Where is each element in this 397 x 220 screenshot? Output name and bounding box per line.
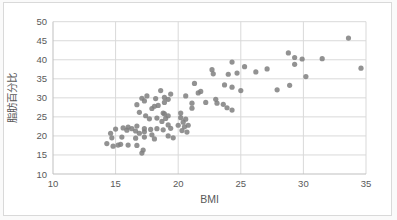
y-axis-title: 脂肪百分比 xyxy=(6,73,18,123)
x-tick-label: 20 xyxy=(173,178,184,189)
y-tick-label: 35 xyxy=(36,73,47,84)
data-point xyxy=(229,107,234,112)
data-point xyxy=(147,116,152,121)
x-tick-label: 10 xyxy=(48,178,59,189)
data-point xyxy=(189,106,194,111)
data-point xyxy=(154,115,159,120)
y-tick-label: 50 xyxy=(36,16,47,27)
data-point xyxy=(320,56,325,61)
x-tick-label: 30 xyxy=(298,178,309,189)
data-point xyxy=(108,131,113,136)
data-point xyxy=(286,50,291,55)
data-point xyxy=(242,64,247,69)
data-point xyxy=(300,56,305,61)
data-point xyxy=(118,142,123,147)
y-tick-label: 10 xyxy=(36,169,47,180)
data-point xyxy=(158,88,163,93)
data-point xyxy=(104,141,109,146)
data-point xyxy=(109,135,114,140)
data-point xyxy=(287,83,292,88)
data-point xyxy=(224,105,229,110)
data-point xyxy=(253,69,258,74)
data-point xyxy=(178,110,183,115)
data-point xyxy=(113,126,118,131)
data-point xyxy=(142,134,147,139)
x-tick-label: 35 xyxy=(361,178,372,189)
data-point xyxy=(275,87,280,92)
data-point xyxy=(148,127,153,132)
scatter-plot: 101520253035101520253035404550BMI脂肪百分比 xyxy=(0,0,397,220)
x-axis-title: BMI xyxy=(200,193,219,205)
data-point xyxy=(186,123,191,128)
y-tick-label: 25 xyxy=(36,111,47,122)
data-point xyxy=(214,101,219,106)
data-point xyxy=(134,102,139,107)
data-point xyxy=(133,136,138,141)
data-point xyxy=(226,72,231,77)
data-point xyxy=(168,91,173,96)
data-point xyxy=(141,147,146,152)
data-point xyxy=(183,93,188,98)
data-point xyxy=(178,115,183,120)
y-tick-label: 15 xyxy=(36,149,47,160)
data-point xyxy=(211,71,216,76)
data-point xyxy=(166,133,171,138)
data-point xyxy=(234,71,239,76)
data-point xyxy=(166,97,171,102)
data-point xyxy=(358,66,363,71)
data-point xyxy=(161,127,166,132)
x-tick-label: 25 xyxy=(236,178,247,189)
data-point xyxy=(292,62,297,67)
data-point xyxy=(110,144,115,149)
data-point xyxy=(126,142,131,147)
data-point xyxy=(134,123,139,128)
data-point xyxy=(292,55,297,60)
data-point xyxy=(176,123,181,128)
data-point xyxy=(229,85,234,90)
data-point xyxy=(152,136,157,141)
data-point xyxy=(264,66,269,71)
data-point xyxy=(303,74,308,79)
data-point xyxy=(119,134,124,139)
data-point xyxy=(144,93,149,98)
y-tick-label: 30 xyxy=(36,92,47,103)
data-point xyxy=(171,135,176,140)
data-point xyxy=(222,82,227,87)
data-point xyxy=(203,100,208,105)
y-tick-label: 40 xyxy=(36,54,47,65)
data-point xyxy=(238,88,243,93)
data-point xyxy=(184,130,189,135)
y-tick-label: 45 xyxy=(36,35,47,46)
data-point xyxy=(192,81,197,86)
data-point xyxy=(156,103,161,108)
x-tick-label: 15 xyxy=(110,178,121,189)
data-point xyxy=(168,126,173,131)
data-point xyxy=(198,89,203,94)
data-point xyxy=(137,131,142,136)
data-point xyxy=(137,110,142,115)
data-point xyxy=(346,35,351,40)
data-point xyxy=(134,143,139,148)
data-point xyxy=(183,117,188,122)
data-point xyxy=(153,96,158,101)
data-point xyxy=(154,126,159,131)
data-point xyxy=(142,126,147,131)
data-point xyxy=(142,98,147,103)
data-point xyxy=(229,59,234,64)
data-point xyxy=(189,101,194,106)
y-tick-label: 20 xyxy=(36,130,47,141)
data-point xyxy=(166,113,171,118)
